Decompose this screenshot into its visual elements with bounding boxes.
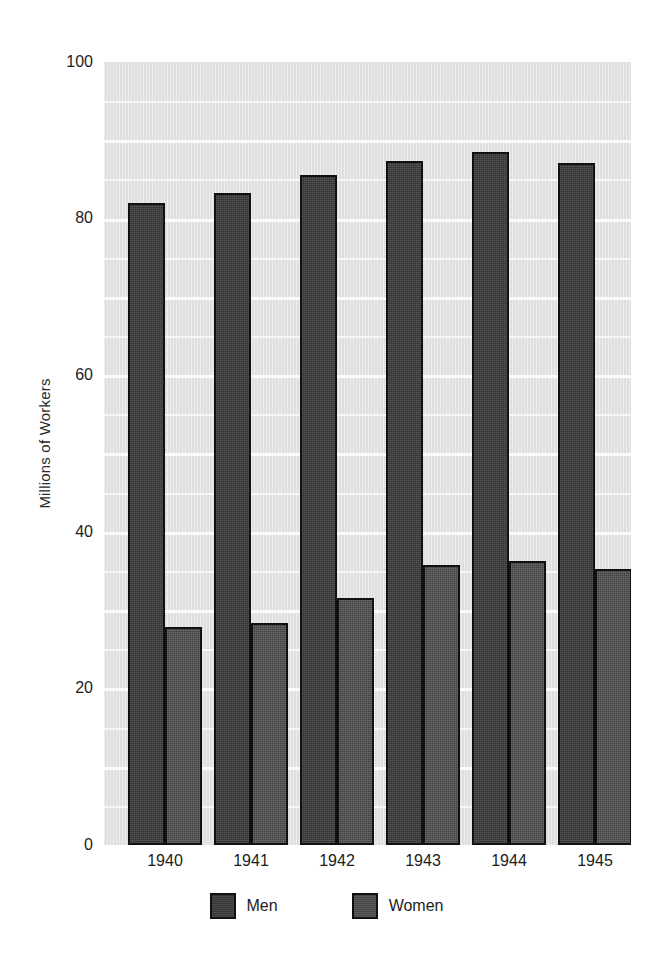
- bar-men-1942[interactable]: [300, 175, 337, 845]
- bar-chart-figure: Millions of Workers 100 80 60 40 20 0: [0, 0, 653, 969]
- bar-men-1945[interactable]: [558, 163, 595, 845]
- legend-entry-women[interactable]: Women: [352, 893, 444, 919]
- bar-women-1943[interactable]: [423, 565, 460, 845]
- x-tick-label-1940: 1940: [120, 852, 210, 870]
- gridline-65: [104, 336, 631, 338]
- bar-women-1945[interactable]: [595, 569, 631, 845]
- bar-men-1944[interactable]: [472, 152, 509, 845]
- gridline-95: [104, 101, 631, 103]
- bar-men-1941[interactable]: [214, 193, 251, 845]
- page-bottom-text-artifact: .............: [108, 961, 578, 969]
- y-tick-label-40: 40: [33, 523, 93, 541]
- legend-label-women: Women: [389, 897, 444, 915]
- legend-swatch-men-icon: [210, 893, 236, 919]
- gridline-40: [104, 532, 631, 535]
- x-tick-label-1941: 1941: [206, 852, 296, 870]
- legend-label-men: Men: [247, 897, 278, 915]
- x-tick-label-1943: 1943: [378, 852, 468, 870]
- bar-women-1944[interactable]: [509, 561, 546, 845]
- x-tick-label-1942: 1942: [292, 852, 382, 870]
- gridline-90: [104, 140, 631, 143]
- gridline-80: [104, 219, 631, 222]
- chart-legend: Men Women: [0, 893, 653, 919]
- y-tick-label-60: 60: [33, 366, 93, 384]
- legend-swatch-women-icon: [352, 893, 378, 919]
- y-tick-label-100: 100: [33, 53, 93, 71]
- gridline-70: [104, 297, 631, 300]
- gridline-75: [104, 258, 631, 260]
- y-tick-label-20: 20: [33, 679, 93, 697]
- bar-women-1940[interactable]: [165, 627, 202, 845]
- bar-women-1942[interactable]: [337, 598, 374, 845]
- legend-entry-men[interactable]: Men: [210, 893, 278, 919]
- gridline-35: [104, 571, 631, 573]
- x-tick-label-1945: 1945: [550, 852, 640, 870]
- gridline-85: [104, 179, 631, 181]
- x-tick-label-1944: 1944: [464, 852, 554, 870]
- plot-area: [104, 62, 631, 845]
- gridline-60: [104, 375, 631, 378]
- gridline-45: [104, 493, 631, 495]
- y-tick-label-0: 0: [33, 836, 93, 854]
- bar-men-1940[interactable]: [128, 203, 165, 845]
- y-tick-label-80: 80: [33, 209, 93, 227]
- bar-men-1943[interactable]: [386, 161, 423, 845]
- gridline-50: [104, 453, 631, 456]
- gridline-55: [104, 414, 631, 416]
- bar-women-1941[interactable]: [251, 623, 288, 845]
